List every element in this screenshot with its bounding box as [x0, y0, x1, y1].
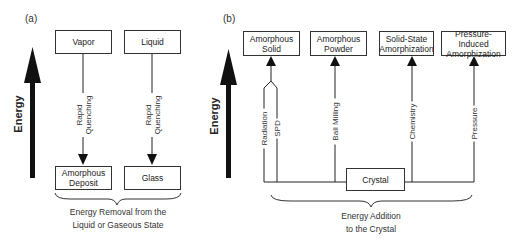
process-label-spd: SPD — [273, 119, 282, 139]
pressure-induced-amorphization-box: Pressure-Induced Amorphization — [441, 31, 506, 56]
liquid-label: Liquid — [141, 37, 164, 47]
energy-arrow-a — [24, 47, 41, 178]
vapor-label: Vapor — [72, 37, 94, 47]
energy-axis-label-a: Energy — [12, 94, 24, 134]
process-label-radiation: Radiation — [260, 109, 269, 149]
process-label-pressure: Pressure — [470, 106, 479, 142]
caption-b: Energy Addition to the Crystal — [320, 210, 422, 236]
brace-b — [271, 195, 472, 207]
panel-a-label: (a) — [25, 13, 37, 24]
process-label-ball-milling: Ball Milling — [331, 99, 340, 145]
amorphous-deposit-box: Amorphous Deposit — [55, 166, 112, 190]
process-label-chemistry: Chemistry — [408, 102, 417, 142]
amorphous-powder-box: Amorphous Powder — [310, 31, 367, 56]
amorphous-solid-box: Amorphous Solid — [243, 31, 300, 56]
glass-box: Glass — [124, 166, 181, 190]
energy-arrow-b — [220, 49, 237, 178]
rapid-quenching-label-liquid: Rapid Quenching — [144, 93, 162, 137]
vapor-box: Vapor — [55, 30, 112, 54]
solid-state-amorphization-box: Solid-State Amorphization — [379, 31, 434, 56]
brace-a — [55, 193, 181, 205]
liquid-box: Liquid — [124, 30, 181, 54]
crystal-box: Crystal — [346, 168, 405, 191]
panel-b-label: (b) — [223, 13, 235, 24]
caption-a: Energy Removal from the Liquid or Gaseou… — [57, 206, 179, 232]
energy-axis-label-b: Energy — [208, 96, 220, 136]
rapid-quenching-label-vapor: Rapid Quenching — [75, 93, 93, 137]
